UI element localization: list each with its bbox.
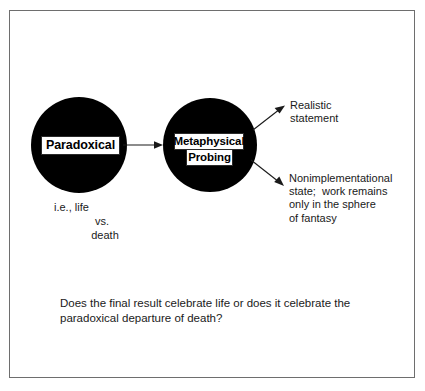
subtext-line-2: vs.	[46, 214, 132, 228]
node-label-probing: Probing	[186, 149, 233, 166]
connector-lower-branch-arrow	[251, 160, 284, 186]
annotation-nonimplementational-state: Nonimplementational state; work remains …	[289, 172, 392, 225]
subtext-line-1: i.e., life	[46, 200, 132, 214]
connector-upper-branch-arrow	[253, 106, 285, 131]
subtext-line-3: death	[46, 228, 132, 242]
node-label-paradoxical: Paradoxical	[41, 136, 120, 155]
subtext-life-vs-death: i.e., life vs. death	[46, 200, 132, 242]
caption-question-text: Does the final result celebrate life or …	[60, 296, 360, 326]
connector-main-arrow	[123, 141, 163, 148]
annotation-realistic-statement: Realistic statement	[290, 99, 338, 125]
node-label-metaphysical: Metaphysical	[174, 133, 244, 150]
